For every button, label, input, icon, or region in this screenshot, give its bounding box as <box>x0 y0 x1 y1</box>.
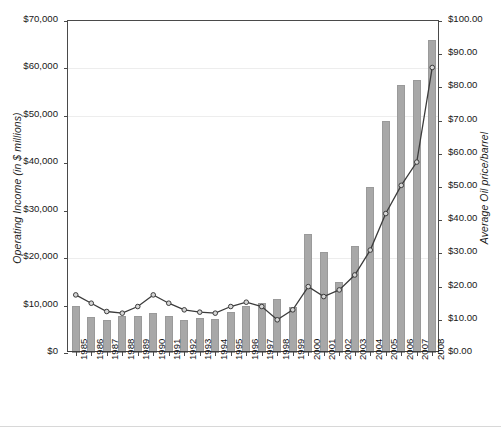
x-tick-label-2003: 2003 <box>358 339 368 360</box>
plot-area <box>67 20 439 352</box>
x-tick-label-1992: 1992 <box>188 339 198 360</box>
y-tick-label-right: $40.00 <box>448 213 501 223</box>
oil-price-marker-1987 <box>104 309 109 314</box>
y-tick-label-right: $90.00 <box>448 47 501 57</box>
oil-price-marker-1990 <box>151 293 156 298</box>
y-tick-label-left: $40,000 <box>4 156 58 166</box>
y-tick-label-left: $0 <box>4 346 58 356</box>
y-tick-label-right: $30.00 <box>448 246 501 256</box>
y-tick-label-left: $20,000 <box>4 251 58 261</box>
y-tick-label-right: $60.00 <box>448 147 501 157</box>
y-tick-label-left: $30,000 <box>4 204 58 214</box>
oil-price-marker-2003 <box>352 273 357 278</box>
y-tickmark-left <box>64 353 68 354</box>
x-tick-label-2008: 2008 <box>436 339 446 360</box>
x-tick-label-2001: 2001 <box>327 339 337 360</box>
oil-price-marker-1995 <box>228 304 233 309</box>
x-tick-label-2005: 2005 <box>389 339 399 360</box>
y-tick-label-left: $50,000 <box>4 109 58 119</box>
x-tick-label-1994: 1994 <box>219 339 229 360</box>
oil-price-marker-2008 <box>430 65 435 70</box>
oil-price-marker-1996 <box>244 300 249 305</box>
y-tick-label-left: $60,000 <box>4 61 58 71</box>
y-tick-label-right: $10.00 <box>448 313 501 323</box>
oil-price-marker-1999 <box>290 308 295 313</box>
oil-price-marker-2000 <box>306 284 311 289</box>
oil-price-marker-2004 <box>368 248 373 253</box>
oil-price-marker-1992 <box>182 308 187 313</box>
x-tick-label-1995: 1995 <box>234 339 244 360</box>
oil-price-marker-2001 <box>321 294 326 299</box>
oil-price-marker-2006 <box>399 183 404 188</box>
oil-price-marker-1994 <box>213 311 218 316</box>
oil-price-line-series <box>68 21 440 353</box>
x-tick-label-1986: 1986 <box>95 339 105 360</box>
x-tick-label-1985: 1985 <box>79 339 89 360</box>
oil-price-marker-1986 <box>89 301 94 306</box>
oil-price-marker-1989 <box>135 304 140 309</box>
x-tick-label-1993: 1993 <box>203 339 213 360</box>
x-tick-label-1988: 1988 <box>126 339 136 360</box>
oil-price-marker-1997 <box>259 304 264 309</box>
x-tick-label-1999: 1999 <box>296 339 306 360</box>
y-axis-right-ticks: $0.00$10.00$20.00$30.00$40.00$50.00$60.0… <box>448 0 501 433</box>
x-tick-label-1996: 1996 <box>250 339 260 360</box>
y-tick-label-right: $20.00 <box>448 280 501 290</box>
x-tick-label-1997: 1997 <box>265 339 275 360</box>
y-tick-label-right: $70.00 <box>448 114 501 124</box>
oil-price-marker-2007 <box>414 160 419 165</box>
y-axis-left-ticks: $0$10,000$20,000$30,000$40,000$50,000$60… <box>4 0 58 433</box>
oil-price-marker-2005 <box>383 211 388 216</box>
y-tick-label-left: $70,000 <box>4 14 58 24</box>
oil-price-marker-1993 <box>197 310 202 315</box>
y-tick-label-right: $0.00 <box>448 346 501 356</box>
y-tick-label-right: $100.00 <box>448 14 501 24</box>
oil-price-marker-1998 <box>275 318 280 323</box>
x-tick-label-2007: 2007 <box>420 339 430 360</box>
x-tick-label-1990: 1990 <box>157 339 167 360</box>
oil-price-marker-2002 <box>337 288 342 293</box>
x-tick-label-2004: 2004 <box>374 339 384 360</box>
x-tick-label-2000: 2000 <box>312 339 322 360</box>
x-tick-label-1987: 1987 <box>110 339 120 360</box>
x-tick-label-1991: 1991 <box>172 339 182 360</box>
oil-price-marker-1985 <box>73 293 78 298</box>
oil-price-polyline <box>76 67 433 319</box>
x-axis-labels: 1985198619871988198919901991199219931994… <box>67 356 439 426</box>
x-tick-label-1998: 1998 <box>281 339 291 360</box>
y-tick-label-right: $80.00 <box>448 80 501 90</box>
oil-price-marker-1988 <box>120 311 125 316</box>
oil-price-marker-1991 <box>166 301 171 306</box>
bottom-rule <box>0 426 501 427</box>
x-tick-label-1989: 1989 <box>141 339 151 360</box>
x-tick-label-2006: 2006 <box>405 339 415 360</box>
y-tick-label-left: $10,000 <box>4 299 58 309</box>
x-tick-label-2002: 2002 <box>343 339 353 360</box>
y-tick-label-right: $50.00 <box>448 180 501 190</box>
oil-income-chart: Operating Income (in $ millions) Average… <box>0 0 501 433</box>
